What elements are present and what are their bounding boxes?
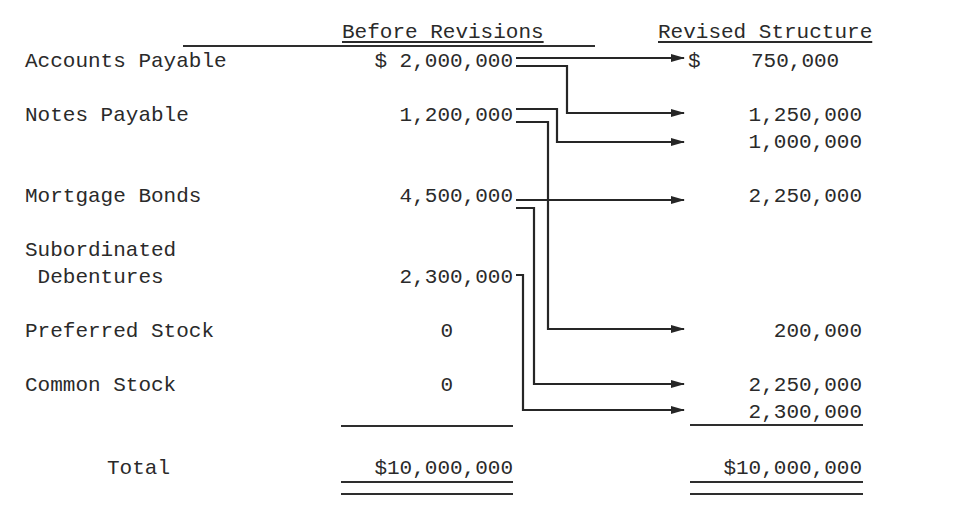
arrow-mb-to-common-2250k bbox=[516, 208, 684, 384]
arrow-sd-to-common-2300k bbox=[516, 275, 684, 410]
arrow-np-to-200k bbox=[516, 122, 684, 329]
arrow-ap-to-1250k bbox=[516, 66, 684, 113]
flow-arrows bbox=[0, 0, 953, 512]
